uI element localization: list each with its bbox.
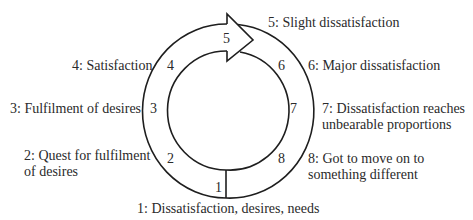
stage-label-3: 3: Fulfilment of desires xyxy=(10,101,141,116)
stage-number-6: 6 xyxy=(278,58,285,73)
stage-number-3: 3 xyxy=(150,101,157,116)
stage-label-7-line2: unbearable proportions xyxy=(322,117,451,132)
stage-label-5: 5: Slight dissatisfaction xyxy=(268,15,399,30)
stage-label-8-line2: something different xyxy=(308,167,418,182)
stage-number-7: 7 xyxy=(290,101,297,116)
stage-label-1: 1: Dissatisfaction, desires, needs xyxy=(137,201,319,216)
stage-label-6: 6: Major dissatisfaction xyxy=(308,58,440,73)
stage-label-4: 4: Satisfaction xyxy=(72,58,153,73)
stage-label-2-line1: 2: Quest for fulfilment xyxy=(24,148,150,163)
stage-label-8-line1: 8: Got to move on to xyxy=(308,151,424,166)
stage-number-5: 5 xyxy=(223,31,230,46)
stage-number-2: 2 xyxy=(167,151,174,166)
stage-number-8: 8 xyxy=(278,151,285,166)
cycle-diagram: 1 2 3 4 5 6 7 8 1: Dissatisfaction, desi… xyxy=(0,0,473,220)
inner-ring-left-arc xyxy=(167,51,227,170)
stage-label-7-line1: 7: Dissatisfaction reaches xyxy=(322,101,465,116)
stage-number-4: 4 xyxy=(167,58,174,73)
stage-number-1: 1 xyxy=(215,180,222,195)
stage-label-2-line2: of desires xyxy=(24,164,78,179)
